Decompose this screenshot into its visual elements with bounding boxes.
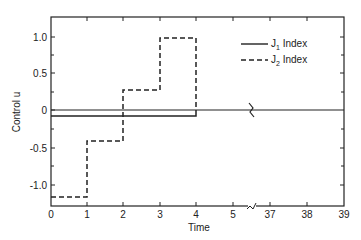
svg-text:5: 5 (230, 209, 236, 220)
svg-text:1: 1 (84, 209, 90, 220)
svg-text:0: 0 (48, 209, 54, 220)
legend-j1-label: J1 Index (271, 38, 307, 51)
svg-text:38: 38 (301, 209, 313, 220)
y-tick-labels: 1.00.50 -0.5-1.0 (30, 32, 48, 191)
svg-text:3: 3 (157, 209, 163, 220)
svg-text:0.5: 0.5 (33, 68, 47, 79)
x-tick-labels: 012 345 373839 (48, 209, 350, 220)
svg-text:37: 37 (264, 209, 276, 220)
x-axis-label: Time (188, 222, 210, 233)
svg-text:-1.0: -1.0 (30, 180, 48, 191)
svg-text:0: 0 (41, 105, 47, 116)
chart: 012 345 373839 1.00.50 -0.5-1.0 Time Con… (0, 0, 361, 240)
svg-text:-0.5: -0.5 (30, 143, 48, 154)
legend-j2-label: J2 Index (271, 54, 307, 67)
svg-text:4: 4 (193, 209, 199, 220)
y-axis-label: Control u (11, 92, 22, 133)
svg-text:1.0: 1.0 (33, 32, 47, 43)
series-j2 (51, 38, 196, 197)
legend: J1 Index J2 Index (241, 38, 307, 67)
svg-text:39: 39 (338, 209, 350, 220)
svg-text:2: 2 (120, 209, 126, 220)
